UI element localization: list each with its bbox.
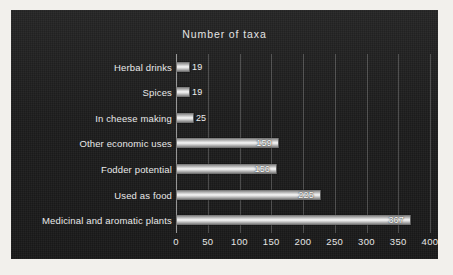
bar bbox=[177, 87, 190, 97]
bar-row: Used as food225 bbox=[176, 182, 438, 208]
category-label: In cheese making bbox=[95, 112, 172, 123]
bar-value-label: 19 bbox=[192, 87, 202, 97]
bar bbox=[177, 113, 194, 123]
category-label: Used as food bbox=[114, 189, 172, 200]
bar-value-label: 367 bbox=[388, 215, 404, 225]
category-label: Fodder potential bbox=[101, 164, 172, 175]
bar bbox=[177, 215, 411, 225]
x-tick-label: 100 bbox=[231, 236, 248, 247]
category-label: Herbal drinks bbox=[114, 61, 172, 72]
category-label: Other economic uses bbox=[79, 138, 172, 149]
bar-value-label: 25 bbox=[196, 113, 206, 123]
bar-row: Medicinal and aromatic plants367 bbox=[176, 207, 438, 233]
chart-title: Number of taxa bbox=[11, 28, 438, 40]
chart-panel: Number of taxa Herbal drinks19Spices19In… bbox=[11, 10, 438, 259]
x-tick-label: 350 bbox=[390, 236, 407, 247]
plot-area: Herbal drinks19Spices19In cheese making2… bbox=[176, 54, 430, 233]
x-axis: 050100150200250300350400 bbox=[176, 236, 430, 252]
x-tick-label: 50 bbox=[202, 236, 213, 247]
bar-row: Other economic uses159 bbox=[176, 131, 438, 157]
bar-row: Fodder potential156 bbox=[176, 156, 438, 182]
bar-value-label: 225 bbox=[298, 190, 314, 200]
x-tick-label: 400 bbox=[422, 236, 438, 247]
x-tick-label: 200 bbox=[295, 236, 312, 247]
x-tick-label: 250 bbox=[326, 236, 343, 247]
bar-value-label: 19 bbox=[192, 62, 202, 72]
chart-screenshot: Number of taxa Herbal drinks19Spices19In… bbox=[0, 0, 453, 275]
category-label: Spices bbox=[143, 87, 172, 98]
bar-row: Herbal drinks19 bbox=[176, 54, 438, 80]
x-tick-label: 0 bbox=[173, 236, 179, 247]
bar-value-label: 156 bbox=[254, 164, 270, 174]
category-label: Medicinal and aromatic plants bbox=[42, 215, 172, 226]
x-tick-label: 150 bbox=[263, 236, 280, 247]
bar-value-label: 159 bbox=[256, 138, 272, 148]
bar bbox=[177, 62, 190, 72]
x-tick-label: 300 bbox=[358, 236, 375, 247]
bar-row: Spices19 bbox=[176, 80, 438, 106]
bar-row: In cheese making25 bbox=[176, 105, 438, 131]
